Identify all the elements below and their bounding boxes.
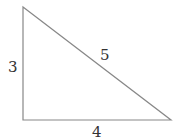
right-triangle — [23, 7, 171, 120]
hypotenuse-label: 5 — [100, 46, 110, 64]
triangle-diagram: 3 5 4 — [0, 0, 177, 139]
horizontal-side-label: 4 — [92, 123, 102, 139]
vertical-side-label: 3 — [8, 58, 18, 76]
